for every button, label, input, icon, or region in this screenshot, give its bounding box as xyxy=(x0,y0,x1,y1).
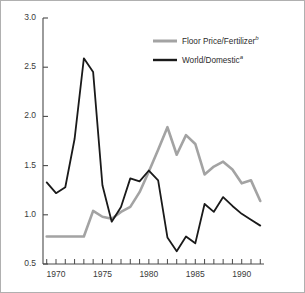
series-line-floor-price-fertilizer xyxy=(47,127,261,236)
y-tick-label: 2.5 xyxy=(6,61,36,71)
y-tick-label: 1.0 xyxy=(6,209,36,219)
y-tick-label: 0.5 xyxy=(6,258,36,268)
y-axis-ticks xyxy=(43,18,48,264)
legend-label-text: World/Domestic xyxy=(182,56,240,65)
chart-figure: 0.51.01.52.02.53.0 19701975198019851990 … xyxy=(0,0,305,293)
legend-swatches xyxy=(153,41,177,60)
x-tick-label: 1975 xyxy=(82,269,122,279)
x-tick-label: 1985 xyxy=(175,269,215,279)
series-line-world-domestic xyxy=(47,58,261,251)
legend-label-floor-price-fertilizer: Floor Price/Fertilizerb xyxy=(182,35,259,46)
legend-label-text: Floor Price/Fertilizer xyxy=(182,37,255,46)
legend-label-superscript: a xyxy=(240,54,243,60)
legend-label-world-domestic: World/Domestica xyxy=(182,54,243,65)
legend-label-superscript: b xyxy=(255,35,258,41)
y-tick-label: 3.0 xyxy=(6,12,36,22)
x-tick-label: 1990 xyxy=(222,269,262,279)
x-tick-label: 1970 xyxy=(36,269,76,279)
y-tick-label: 1.5 xyxy=(6,160,36,170)
data-series-group xyxy=(47,58,261,251)
x-axis-ticks xyxy=(47,259,261,264)
line-chart-plot xyxy=(1,1,305,293)
y-tick-label: 2.0 xyxy=(6,110,36,120)
x-tick-label: 1980 xyxy=(129,269,169,279)
